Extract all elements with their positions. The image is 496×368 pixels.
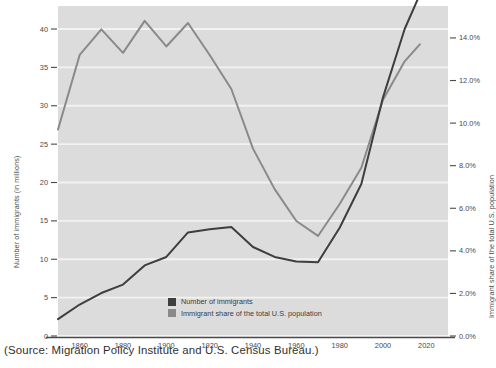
y-axis-right-title: Immigrant share of the total U.S. popula… (487, 175, 496, 318)
y-axis-left-title: Number of immigrants (in millions) (12, 156, 21, 268)
legend-item-number-of-immigrants: Number of immigrants (168, 297, 322, 306)
y-axis-left-tick-label: 35 (16, 63, 48, 72)
y-axis-right-tick-label: 0.0% (459, 332, 476, 341)
y-axis-right-tick-label: 2.0% (459, 289, 476, 298)
legend-label-number-of-immigrants: Number of immigrants (181, 297, 253, 306)
x-axis-tick-label: 2000 (363, 341, 403, 350)
legend-swatch-share-icon (168, 309, 176, 317)
y-axis-right-tick-label: 8.0% (459, 161, 476, 170)
y-axis-right-tick-label: 6.0% (459, 204, 476, 213)
y-axis-right-tick-label: 12.0% (459, 76, 480, 85)
x-axis-tick-label: 1980 (320, 341, 360, 350)
y-axis-right-tick-label: 10.0% (459, 119, 480, 128)
x-axis-tick-label: 2020 (406, 341, 446, 350)
y-axis-left-tick-label: 30 (16, 101, 48, 110)
y-axis-right-tick-label: 14.0% (459, 33, 480, 42)
y-axis-left-tick-label: 5 (16, 293, 48, 302)
y-axis-left-tick-label: 40 (16, 25, 48, 34)
chart-legend: Number of immigrants Immigrant share of … (168, 297, 322, 320)
source-caption: (Source: Migration Policy Institute and … (4, 344, 319, 356)
legend-label-immigrant-share: Immigrant share of the total U.S. popula… (181, 309, 322, 318)
legend-item-immigrant-share: Immigrant share of the total U.S. popula… (168, 309, 322, 318)
y-axis-right-tick-label: 4.0% (459, 246, 476, 255)
legend-swatch-immigrants-icon (168, 298, 176, 306)
y-axis-left-tick-label: 0 (16, 332, 48, 341)
y-axis-left-tick-label: 25 (16, 140, 48, 149)
